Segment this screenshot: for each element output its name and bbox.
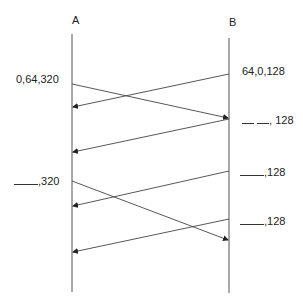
blank-1[interactable] — [14, 176, 26, 185]
label-a-first: 0,64,320 — [16, 73, 59, 85]
label-b-second-suffix: , 128 — [269, 114, 293, 126]
label-b-third-suffix: ,128 — [264, 166, 285, 178]
sequence-diagram-canvas — [0, 0, 303, 306]
label-b-first: 64,0,128 — [242, 65, 285, 77]
node-label-b: B — [229, 16, 236, 28]
message-b-to-a-1 — [73, 74, 229, 107]
message-b-to-a-2 — [73, 119, 229, 152]
label-a-second: ,320 — [14, 175, 59, 187]
blank-8[interactable] — [252, 216, 264, 225]
label-b-second: , 128 — [242, 114, 294, 126]
blank-3[interactable] — [242, 115, 254, 124]
label-b-third: ,128 — [240, 166, 285, 178]
message-b-to-a-4 — [73, 219, 229, 252]
blank-6[interactable] — [252, 167, 264, 176]
blank-5[interactable] — [240, 167, 252, 176]
message-b-to-a-3 — [73, 171, 229, 206]
label-b-fourth-suffix: ,128 — [264, 215, 285, 227]
node-label-a: A — [72, 14, 79, 26]
message-a-to-b-2 — [72, 181, 228, 240]
blank-2[interactable] — [26, 176, 38, 185]
label-b-fourth: ,128 — [240, 215, 285, 227]
label-a-second-suffix: ,320 — [38, 175, 59, 187]
blank-4[interactable] — [257, 115, 269, 124]
blank-7[interactable] — [240, 216, 252, 225]
message-a-to-b-1 — [72, 84, 228, 118]
